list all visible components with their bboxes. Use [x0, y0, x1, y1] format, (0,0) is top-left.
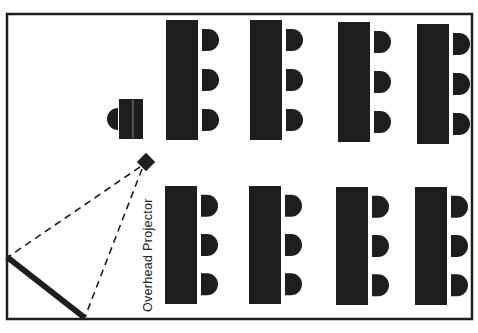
student-table — [415, 187, 447, 305]
chair-icon — [285, 234, 302, 256]
overhead-projector-icon — [137, 153, 155, 171]
instructor-station — [107, 99, 143, 139]
chair-icon — [451, 235, 468, 257]
chair-icon — [374, 71, 391, 93]
beam-line — [8, 167, 140, 257]
room-outline — [7, 14, 472, 319]
chair-icon — [453, 73, 470, 95]
student-table — [250, 20, 282, 140]
student-table — [338, 22, 370, 142]
chair-icon — [286, 29, 303, 51]
student-table — [165, 186, 197, 304]
instructor-desk — [119, 99, 143, 139]
chair-icon — [374, 31, 391, 53]
chair-icon — [201, 234, 218, 256]
chair-icon — [202, 69, 219, 91]
chair-icon — [285, 273, 302, 295]
chair-icon — [285, 195, 302, 217]
chair-icon — [286, 109, 303, 131]
student-table — [336, 187, 368, 305]
projection-beams — [8, 167, 142, 317]
chair-icon — [374, 111, 391, 133]
instructor-chair-icon — [107, 108, 118, 130]
chair-icon — [201, 273, 218, 295]
classroom-diagram: Overhead Projector — [0, 0, 478, 333]
student-tables — [165, 20, 449, 305]
screen-bar — [7, 257, 85, 318]
student-table — [417, 24, 449, 144]
chair-icon — [202, 29, 219, 51]
chair-icon — [202, 109, 219, 131]
chair-icon — [453, 33, 470, 55]
projection-screen — [7, 257, 85, 318]
chair-icon — [372, 235, 389, 257]
chair-icon — [451, 196, 468, 218]
chair-icon — [451, 274, 468, 296]
chair-icon — [286, 69, 303, 91]
overhead-projector-label: Overhead Projector — [141, 198, 155, 312]
chair-icon — [201, 195, 218, 217]
projector-diamond — [137, 153, 155, 171]
beam-line — [85, 169, 142, 317]
student-table — [249, 186, 281, 304]
student-table — [166, 20, 198, 140]
room-wall — [7, 14, 472, 319]
chair-icon — [453, 113, 470, 135]
chair-icon — [372, 274, 389, 296]
chair-icon — [372, 196, 389, 218]
